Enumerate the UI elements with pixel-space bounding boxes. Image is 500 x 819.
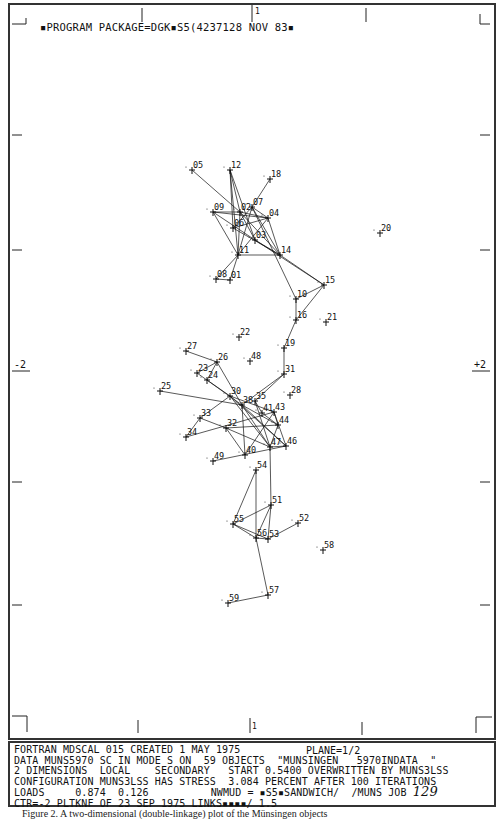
object-point: 16	[289, 310, 307, 324]
point-label: 46	[287, 436, 297, 446]
point-label: 20	[381, 223, 391, 233]
point-label: 23	[198, 363, 208, 373]
point-label: 53	[269, 529, 279, 539]
point-label: 26	[218, 352, 228, 362]
object-point: 22	[232, 327, 250, 341]
axis-label-top: 1	[255, 7, 260, 16]
object-point: 12	[223, 160, 241, 174]
object-point: 59	[221, 593, 239, 607]
program-package-header: ▪PROGRAM PACKAGE=DGK▪S5(4237128 NOV 83▪	[40, 21, 294, 33]
point-label: 07	[253, 197, 263, 207]
point-label: 25	[161, 381, 171, 391]
point-label: 38	[243, 395, 253, 405]
object-point: 19	[277, 338, 295, 352]
axis-label-right: +2	[474, 359, 486, 370]
point-label: 18	[271, 169, 281, 179]
point-label: 34	[187, 427, 197, 437]
point-label: 04	[269, 208, 279, 218]
point-label: 19	[285, 338, 295, 348]
point-label: 59	[229, 593, 239, 603]
object-point: 18	[263, 169, 281, 183]
point-label: 58	[324, 540, 334, 550]
point-label: 10	[297, 289, 307, 299]
run-info-panel: FORTRAN MDSCAL 015 CREATED 1 MAY 1975 PL…	[8, 741, 496, 807]
point-label: 22	[240, 327, 250, 337]
point-label: 08	[217, 269, 227, 279]
point-label: 06	[234, 218, 244, 228]
point-label: 47	[271, 437, 281, 447]
object-point: 57	[261, 585, 279, 599]
frame-ticks	[12, 5, 492, 735]
point-label: 32	[227, 418, 237, 428]
plane-label: PLANE=1/2	[306, 745, 360, 756]
point-label: 44	[279, 415, 289, 425]
point-label: 30	[231, 386, 241, 396]
figure-caption: Figure 2. A two-dimensional (double-link…	[22, 808, 328, 819]
point-label: 09	[214, 202, 224, 212]
point-label: 21	[327, 312, 337, 322]
point-label: 02	[241, 202, 251, 212]
point-label: 31	[285, 364, 295, 374]
point-label: 24	[208, 370, 218, 380]
point-label: 48	[251, 351, 261, 361]
point-label: 43	[275, 402, 285, 412]
point-label: 11	[239, 245, 249, 255]
link-line	[186, 351, 217, 362]
object-point: 49	[206, 451, 224, 465]
loads-text: LOADS 0.874 0.126	[14, 787, 149, 798]
object-point: 55	[226, 514, 244, 528]
object-point: 54	[249, 460, 267, 474]
point-label: 33	[201, 408, 211, 418]
object-point: 21	[319, 312, 337, 326]
object-point: 20	[373, 223, 391, 237]
job-number: 129	[413, 784, 438, 799]
object-point: 56	[249, 528, 267, 542]
point-label: 57	[269, 585, 279, 595]
point-label: 35	[256, 391, 266, 401]
object-points: 0512180907040206031114200801151016212219…	[153, 160, 391, 607]
object-point: 48	[243, 351, 261, 365]
link-line	[242, 405, 245, 455]
object-point: 58	[316, 540, 334, 554]
point-label: 15	[325, 275, 335, 285]
point-label: 12	[231, 160, 241, 170]
object-point: 46	[279, 436, 297, 450]
object-point: 08	[209, 269, 227, 283]
object-point: 28	[283, 385, 301, 399]
link-line	[230, 170, 238, 255]
point-label: 54	[257, 460, 267, 470]
point-label: 52	[299, 513, 309, 523]
point-label: 03	[256, 230, 266, 240]
point-label: 55	[234, 514, 244, 524]
object-point: 25	[153, 381, 171, 395]
object-point: 32	[219, 418, 237, 432]
link-line	[207, 380, 230, 396]
point-label: 16	[297, 310, 307, 320]
point-label: 01	[231, 270, 241, 280]
link-line	[233, 524, 256, 538]
nwmud-text: NWMUD = ▪S5▪SANDWICH/ /MUNS JOB	[211, 787, 413, 798]
object-point: 33	[193, 408, 211, 422]
point-label: 49	[214, 451, 224, 461]
point-label: 27	[187, 341, 197, 351]
point-label: 28	[291, 385, 301, 395]
axis-label-bottom: 1	[252, 722, 257, 731]
footer-line-1: FORTRAN MDSCAL 015 CREATED 1 MAY 1975	[14, 745, 494, 756]
object-point: 31	[277, 364, 295, 378]
object-point: 27	[179, 341, 197, 355]
point-label: 40	[246, 445, 256, 455]
point-label: 14	[281, 245, 291, 255]
point-label: 05	[193, 160, 203, 170]
point-label: 51	[272, 495, 282, 505]
object-point: 34	[179, 427, 197, 441]
axis-label-left: -2	[14, 359, 26, 370]
link-line	[270, 447, 271, 505]
object-point: 11	[231, 245, 249, 259]
link-line	[256, 538, 268, 595]
object-point: 40	[238, 445, 256, 459]
